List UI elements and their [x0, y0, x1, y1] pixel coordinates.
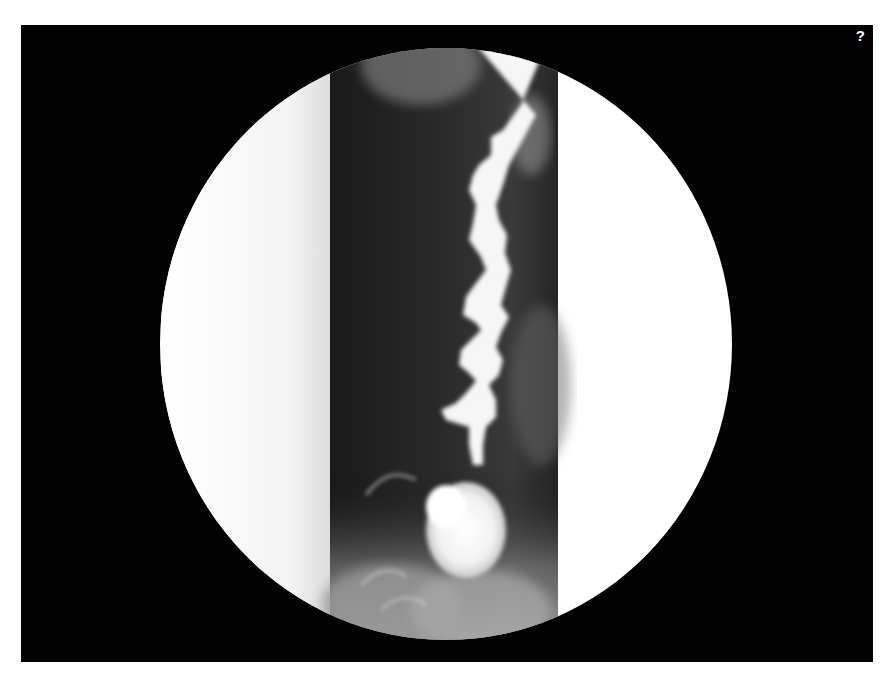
- fluoroscopy-image: [21, 25, 873, 662]
- image-viewer-panel: ?: [21, 25, 873, 662]
- help-button[interactable]: ?: [856, 27, 865, 45]
